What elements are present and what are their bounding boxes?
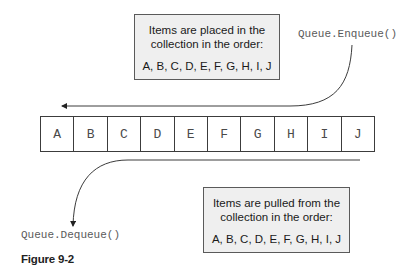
enqueue-label: Queue.Enqueue() xyxy=(298,28,397,40)
queue-collection: A B C D E F G H I J xyxy=(40,116,375,152)
queue-item: F xyxy=(208,117,241,151)
queue-diagram: Items are placed in the collection in th… xyxy=(0,0,420,275)
queue-item: C xyxy=(108,117,141,151)
dequeue-note-box: Items are pulled from the collection in … xyxy=(203,187,350,253)
enqueue-note-line2: collection in the order: xyxy=(135,38,279,52)
queue-item: J xyxy=(342,117,375,151)
queue-item: H xyxy=(275,117,308,151)
dequeue-label: Queue.Dequeue() xyxy=(21,229,120,241)
queue-item: E xyxy=(175,117,208,151)
enqueue-note-line1: Items are placed in the xyxy=(135,24,279,38)
queue-item: A xyxy=(41,117,74,151)
dequeue-note-line2: collection in the order: xyxy=(204,211,349,225)
queue-item: D xyxy=(141,117,174,151)
dequeue-note-order: A, B, C, D, E, F, G, H, I, J xyxy=(204,233,349,246)
queue-item: G xyxy=(241,117,274,151)
queue-item: B xyxy=(74,117,107,151)
enqueue-note-box: Items are placed in the collection in th… xyxy=(134,14,280,80)
figure-caption: Figure 9-2 xyxy=(21,253,74,265)
dequeue-note-line1: Items are pulled from the xyxy=(204,197,349,211)
queue-item: I xyxy=(308,117,341,151)
enqueue-note-order: A, B, C, D, E, F, G, H, I, J xyxy=(135,60,279,73)
